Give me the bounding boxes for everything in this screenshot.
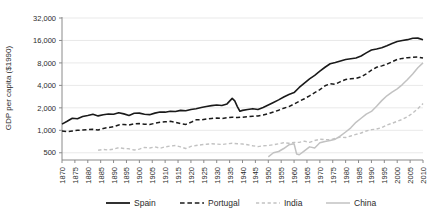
y-tick-label: 1,000 xyxy=(37,126,56,135)
series-line-china xyxy=(268,63,423,157)
x-tick-label: 1895 xyxy=(122,167,131,184)
x-tick-label: 1950 xyxy=(264,167,273,184)
x-tick-label: 1980 xyxy=(342,167,351,184)
x-tick-label: 1965 xyxy=(303,167,312,184)
x-tick-label: 1905 xyxy=(148,167,157,184)
data-series xyxy=(62,38,423,157)
x-tick-label: 1935 xyxy=(226,167,235,184)
y-axis-ticks: 32,00016,0008,0004,0002,0001,000500 xyxy=(33,14,62,158)
x-tick-label: 1960 xyxy=(290,167,299,184)
y-tick-label: 8,000 xyxy=(37,59,56,68)
x-tick-label: 1870 xyxy=(58,167,67,184)
gdp-per-capita-chart: 32,00016,0008,0004,0002,0001,000500 1870… xyxy=(0,0,428,218)
x-tick-label: 2000 xyxy=(393,167,402,184)
x-tick-label: 1875 xyxy=(71,167,80,184)
chart-legend: SpainPortugalIndiaChina xyxy=(106,198,376,208)
y-axis-title: GDP per capita ($1990) xyxy=(4,45,13,130)
legend-label-india: India xyxy=(284,198,303,208)
series-line-spain xyxy=(62,38,423,124)
series-line-portugal xyxy=(62,57,423,132)
x-tick-label: 1940 xyxy=(239,167,248,184)
y-tick-label: 16,000 xyxy=(33,36,56,45)
legend-label-china: China xyxy=(354,198,376,208)
x-tick-label: 1985 xyxy=(355,167,364,184)
legend-label-portugal: Portugal xyxy=(208,198,240,208)
x-tick-label: 1885 xyxy=(97,167,106,184)
y-tick-label: 4,000 xyxy=(37,81,56,90)
x-tick-label: 1975 xyxy=(329,167,338,184)
x-tick-label: 1930 xyxy=(213,167,222,184)
x-axis-ticks: 1870187518801885189018951900190519101915… xyxy=(58,160,428,184)
x-tick-label: 1900 xyxy=(135,167,144,184)
x-tick-label: 1890 xyxy=(110,167,119,184)
gridlines xyxy=(62,18,423,153)
x-tick-label: 1910 xyxy=(161,167,170,184)
x-tick-label: 1925 xyxy=(200,167,209,184)
legend-label-spain: Spain xyxy=(134,198,156,208)
x-tick-label: 1880 xyxy=(84,167,93,184)
x-tick-label: 1995 xyxy=(380,167,389,184)
chart-canvas: 32,00016,0008,0004,0002,0001,000500 1870… xyxy=(0,0,428,218)
x-tick-label: 1920 xyxy=(187,167,196,184)
x-tick-label: 2005 xyxy=(406,167,415,184)
x-tick-label: 1915 xyxy=(174,167,183,184)
x-tick-label: 2010 xyxy=(419,167,428,184)
y-tick-label: 2,000 xyxy=(37,104,56,113)
axes xyxy=(62,17,423,160)
x-tick-label: 1990 xyxy=(367,167,376,184)
series-line-india xyxy=(98,104,423,151)
y-axis-title-text: GDP per capita ($1990) xyxy=(4,45,13,130)
x-tick-label: 1970 xyxy=(316,167,325,184)
y-tick-label: 32,000 xyxy=(33,14,56,23)
x-tick-label: 1955 xyxy=(277,167,286,184)
x-tick-label: 1945 xyxy=(251,167,260,184)
y-tick-label: 500 xyxy=(43,148,56,157)
